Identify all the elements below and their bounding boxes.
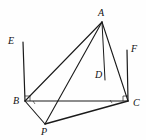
segment-BP (25, 101, 45, 124)
segment-AC (102, 22, 128, 101)
vertex-label-f: F (131, 44, 137, 54)
segment-PC (45, 101, 128, 124)
vertex-label-e: E (8, 36, 14, 46)
vertex-label-b: B (13, 96, 19, 106)
geometry-figure: ABCDEFP (0, 0, 146, 140)
segment-BE (23, 42, 25, 101)
segment-CF (127, 50, 128, 101)
vertex-label-p: P (41, 127, 47, 137)
vertex-label-a: A (98, 8, 104, 18)
vertex-label-d: D (95, 70, 102, 80)
segments-group (23, 22, 128, 124)
vertex-label-c: C (133, 98, 140, 108)
segment-AB (25, 22, 102, 101)
angle-marks-group (25, 96, 128, 104)
figure-canvas (0, 0, 146, 140)
segment-AP (45, 22, 102, 124)
